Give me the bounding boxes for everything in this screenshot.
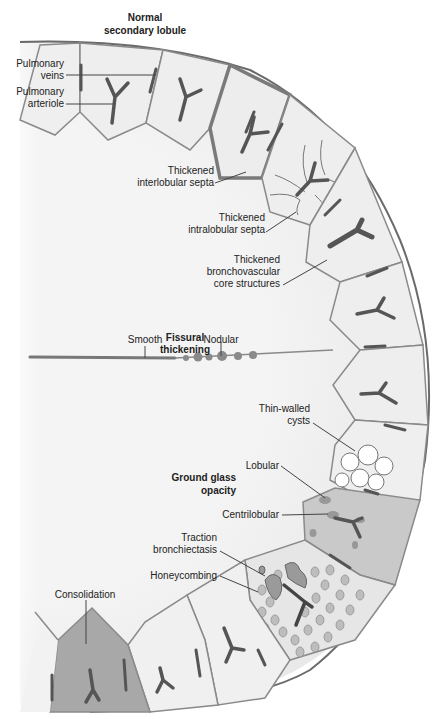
label-ggo-1: Ground glass — [150, 472, 236, 484]
label-pulmonary-veins-1: Pulmonary — [0, 58, 64, 70]
label-intralobular-2: intralobular septa — [160, 224, 265, 236]
label-intralobular-1: Thickened — [160, 212, 265, 224]
label-traction-2: bronchiectasis — [130, 544, 217, 556]
label-ggo-2: opacity — [150, 485, 236, 497]
title-line2: secondary lobule — [75, 25, 215, 37]
title-line1: Normal — [95, 12, 195, 24]
label-consolidation: Consolidation — [40, 589, 130, 601]
label-bronchovascular-3: core structures — [180, 278, 280, 290]
label-bronchovascular-2: bronchovascular — [180, 266, 280, 278]
label-cysts-2: cysts — [240, 415, 310, 427]
label-bronchovascular-1: Thickened — [180, 254, 280, 266]
label-pulmonary-arteriole-2: arteriole — [0, 98, 64, 110]
label-lobular: Lobular — [220, 460, 279, 472]
label-nodular: Nodular — [196, 334, 246, 346]
label-cysts-1: Thin-walled — [240, 403, 310, 415]
label-interlobular-1: Thickened — [110, 165, 214, 177]
label-pulmonary-veins-2: veins — [0, 70, 64, 82]
label-smooth: Smooth — [120, 334, 170, 346]
label-pulmonary-arteriole-1: Pulmonary — [0, 86, 64, 98]
label-honeycombing: Honeycombing — [120, 570, 217, 582]
label-interlobular-2: interlobular septa — [110, 177, 214, 189]
label-traction-1: Traction — [130, 532, 217, 544]
label-centrilobular: Centrilobular — [200, 509, 279, 521]
lung-lobule-diagram — [0, 0, 441, 719]
